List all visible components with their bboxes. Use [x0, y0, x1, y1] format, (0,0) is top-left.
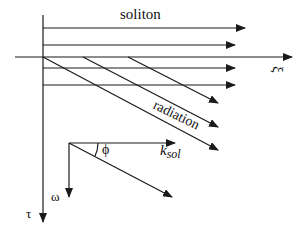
soliton-radiation-diagram [0, 0, 306, 234]
xi-axis-label: ξ [270, 66, 285, 73]
radiation-line [43, 57, 218, 150]
phi-label: ϕ [102, 143, 109, 157]
radiation-vector [69, 143, 172, 197]
k-symbol: k [160, 142, 167, 158]
omega-label: ω [51, 190, 60, 203]
phi-angle-arc [95, 143, 98, 156]
radiation-line [128, 57, 218, 103]
k-sol-label: ksol [160, 143, 181, 160]
tau-axis-label: τ [26, 207, 31, 220]
soliton-label: soliton [120, 7, 161, 22]
k-subscript: sol [167, 147, 181, 161]
